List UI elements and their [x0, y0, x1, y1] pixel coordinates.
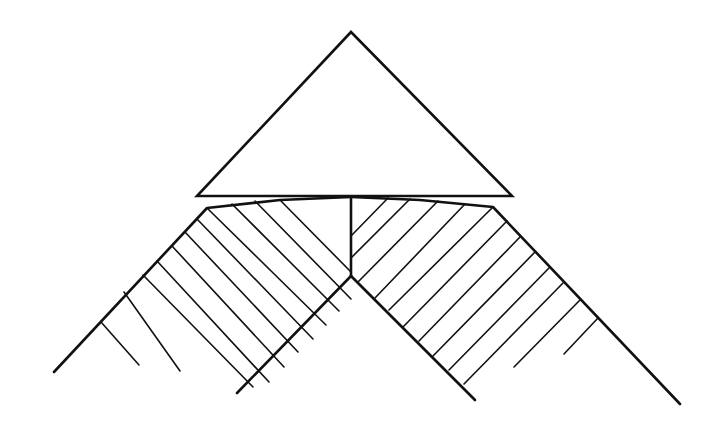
right-outer-edge	[351, 197, 680, 404]
left-hatch-lines	[101, 200, 351, 387]
hatch-line	[157, 261, 269, 382]
right-hatch-lines	[351, 198, 598, 384]
right-inner-edge	[351, 276, 475, 400]
hatch-line	[433, 252, 535, 356]
hatch-line	[280, 200, 351, 272]
inverted-v-band-outline	[54, 197, 680, 404]
hatch-line	[449, 268, 549, 370]
hatch-line	[358, 201, 438, 282]
hatch-line	[419, 237, 520, 341]
diagram-canvas	[0, 0, 721, 431]
hatch-line	[232, 204, 339, 311]
triangle-block	[197, 32, 512, 196]
hatch-line	[172, 246, 284, 367]
hatch-line	[351, 199, 410, 258]
hatch-line	[197, 219, 313, 339]
hatch-line	[255, 201, 351, 299]
hatch-line	[514, 300, 580, 367]
hatch-line	[403, 221, 507, 327]
left-outer-edge	[54, 197, 351, 372]
hatch-line	[351, 198, 388, 236]
hatch-line	[101, 322, 139, 365]
hatch-line	[389, 207, 493, 310]
hatch-line	[143, 275, 253, 387]
hatch-line	[207, 208, 326, 325]
hatch-line	[464, 283, 563, 384]
hatch-line	[564, 318, 598, 354]
